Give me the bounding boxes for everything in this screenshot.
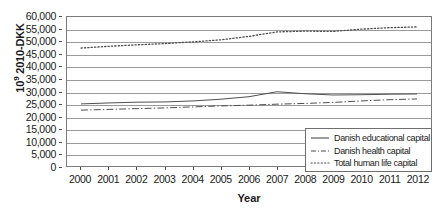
legend-item-health: Danish health capital bbox=[310, 145, 427, 158]
y-tick-mark bbox=[59, 92, 62, 93]
x-axis-title: Year bbox=[66, 192, 432, 204]
x-tick-mark bbox=[221, 167, 222, 170]
x-tick-mark bbox=[277, 167, 278, 170]
line-chart-figure: 109 2010-DKK 05,00010,00015,00020,00025,… bbox=[0, 0, 445, 219]
y-tick-label: 55,000 bbox=[0, 24, 56, 34]
y-tick-mark bbox=[59, 29, 62, 30]
y-tick-mark bbox=[59, 142, 62, 143]
legend-swatch-dotted-icon bbox=[310, 158, 330, 168]
x-tick-mark bbox=[193, 167, 194, 170]
legend-label-health: Danish health capital bbox=[334, 146, 410, 156]
legend-label-total: Total human life capital bbox=[334, 158, 417, 168]
x-tick-mark bbox=[80, 167, 81, 170]
y-tick-mark bbox=[59, 16, 62, 17]
legend-label-educational: Danish educational capital bbox=[334, 133, 430, 143]
y-tick-label: 35,000 bbox=[0, 74, 56, 84]
y-tick-mark bbox=[59, 79, 62, 80]
series-line bbox=[81, 92, 417, 104]
legend-swatch-solid-icon bbox=[310, 133, 330, 143]
y-tick-label: 30,000 bbox=[0, 87, 56, 97]
legend-item-total: Total human life capital bbox=[310, 157, 427, 170]
y-tick-label: 15,000 bbox=[0, 124, 56, 134]
y-tick-label: 45,000 bbox=[0, 49, 56, 59]
series-line bbox=[81, 27, 417, 48]
x-tick-mark bbox=[136, 167, 137, 170]
x-tick-mark bbox=[165, 167, 166, 170]
series-line bbox=[81, 99, 417, 110]
y-tick-label: 20,000 bbox=[0, 112, 56, 122]
y-tick-label: 60,000 bbox=[0, 11, 56, 21]
chart-legend: Danish educational capital Danish health… bbox=[305, 128, 432, 172]
y-tick-label: 50,000 bbox=[0, 36, 56, 46]
legend-swatch-dashdot-icon bbox=[310, 146, 330, 156]
y-tick-mark bbox=[59, 117, 62, 118]
y-tick-label: 5,000 bbox=[0, 149, 56, 159]
y-tick-mark bbox=[59, 154, 62, 155]
y-tick-mark bbox=[59, 66, 62, 67]
legend-item-educational: Danish educational capital bbox=[310, 132, 427, 145]
y-tick-label: 10,000 bbox=[0, 137, 56, 147]
y-tick-label: 40,000 bbox=[0, 61, 56, 71]
x-tick-mark bbox=[108, 167, 109, 170]
y-tick-mark bbox=[59, 129, 62, 130]
y-tick-mark bbox=[59, 104, 62, 105]
y-tick-mark bbox=[59, 54, 62, 55]
x-tick-label: 2012 bbox=[398, 173, 438, 185]
y-tick-mark bbox=[59, 41, 62, 42]
x-tick-mark bbox=[249, 167, 250, 170]
y-tick-label: 25,000 bbox=[0, 99, 56, 109]
